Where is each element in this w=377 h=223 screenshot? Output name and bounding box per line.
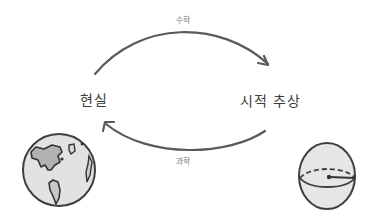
reality-label: 현실 xyxy=(80,89,108,109)
math-edge-label: 수학 xyxy=(176,14,190,25)
diagram-graphics xyxy=(0,0,377,223)
science-arrow xyxy=(103,122,265,150)
earth-globe-icon xyxy=(23,134,95,206)
diagram-canvas: 현실 시적 추상 수학 과학 xyxy=(0,0,377,223)
sphere-hemisphere-icon xyxy=(299,143,355,209)
abstraction-label: 시적 추상 xyxy=(240,90,301,110)
math-arrow xyxy=(95,32,268,74)
science-edge-label: 과학 xyxy=(176,155,190,166)
